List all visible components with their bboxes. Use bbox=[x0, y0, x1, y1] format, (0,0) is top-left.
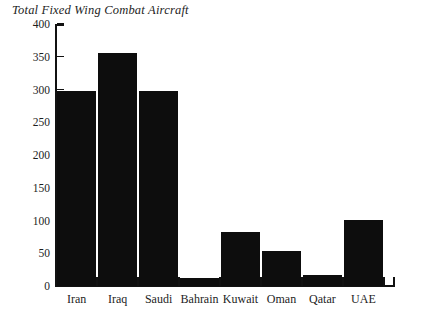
y-axis-tick-label: 50 bbox=[10, 247, 50, 259]
x-axis-tick bbox=[383, 277, 385, 285]
x-axis-tick-label: Bahrain bbox=[181, 292, 219, 307]
x-axis-tick-label: Oman bbox=[267, 292, 296, 307]
y-axis-tick-label: 150 bbox=[10, 182, 50, 194]
y-axis-tick bbox=[57, 56, 64, 57]
bar bbox=[180, 278, 219, 286]
y-axis-tick-label: 300 bbox=[10, 84, 50, 96]
y-axis-tick-label: 0 bbox=[10, 280, 50, 292]
x-axis-end-stub bbox=[393, 277, 395, 286]
bar bbox=[221, 232, 260, 286]
bar-chart-figure: Total Fixed Wing Combat Aircraft 0501001… bbox=[0, 0, 422, 321]
bar bbox=[57, 91, 96, 286]
x-axis-tick bbox=[137, 277, 139, 285]
y-axis-tick-label: 250 bbox=[10, 116, 50, 128]
x-axis-tick bbox=[219, 277, 221, 285]
x-axis-tick bbox=[342, 277, 344, 285]
x-axis-tick-label: UAE bbox=[351, 292, 376, 307]
bar bbox=[262, 251, 301, 286]
x-axis-tick bbox=[301, 277, 303, 285]
x-axis-tick-label: Kuwait bbox=[223, 292, 258, 307]
y-axis-tick-label: 200 bbox=[10, 149, 50, 161]
x-axis-tick-label: Iraq bbox=[108, 292, 127, 307]
x-axis-tick bbox=[178, 277, 180, 285]
plot-area: 050100150200250300350400 IranIraqSaudiBa… bbox=[0, 0, 422, 321]
x-axis-tick-label: Saudi bbox=[145, 292, 172, 307]
x-axis-tick bbox=[260, 277, 262, 285]
bar bbox=[303, 275, 342, 286]
y-axis-tick-label: 350 bbox=[10, 51, 50, 63]
y-axis-tick-label: 100 bbox=[10, 215, 50, 227]
bar bbox=[98, 53, 137, 286]
x-axis-tick-label: Iran bbox=[67, 292, 86, 307]
x-axis-tick bbox=[96, 277, 98, 285]
y-axis-tick bbox=[57, 23, 64, 24]
bar bbox=[139, 91, 178, 286]
bar bbox=[344, 220, 383, 286]
x-axis-tick-label: Qatar bbox=[309, 292, 336, 307]
y-axis-tick-label: 400 bbox=[10, 18, 50, 30]
